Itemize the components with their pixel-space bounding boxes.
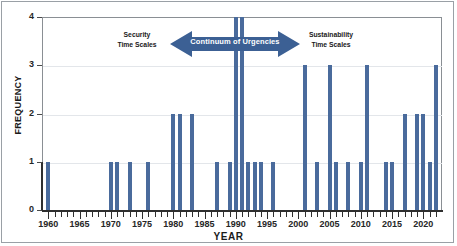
- x-axis-major-tick: [205, 212, 206, 219]
- sustainability-label-line1: Sustainability: [300, 30, 362, 40]
- x-axis-tick-label: 2020: [408, 219, 438, 229]
- x-axis-minor-tick: [161, 212, 162, 217]
- bar: [190, 114, 194, 211]
- double-arrow-icon: [170, 29, 300, 59]
- x-axis-minor-tick: [192, 212, 193, 217]
- continuum-annotation: Security Time Scales Continuum of Urgenc…: [108, 26, 358, 62]
- bar: [428, 162, 432, 210]
- x-axis-major-tick: [423, 212, 424, 219]
- bar: [346, 162, 350, 210]
- x-axis-tick-label: 1990: [221, 219, 251, 229]
- x-axis-tick-label: 2015: [377, 219, 407, 229]
- bar: [178, 114, 182, 211]
- y-axis-tick: [37, 17, 42, 18]
- x-axis-minor-tick: [198, 212, 199, 217]
- x-axis-tick-label: 1995: [252, 219, 282, 229]
- x-axis-minor-tick: [148, 212, 149, 217]
- frequency-by-year-bar-chart: FREQUENCY 01234 196019651970197519801985…: [0, 0, 457, 246]
- bar: [259, 162, 263, 210]
- y-axis-tick: [37, 65, 42, 66]
- bar: [109, 162, 113, 210]
- x-axis-tick-label: 2005: [315, 219, 345, 229]
- x-axis-minor-tick: [380, 212, 381, 217]
- x-axis-tick-label: 1965: [65, 219, 95, 229]
- x-axis-major-tick: [392, 212, 393, 219]
- bar: [128, 162, 132, 210]
- y-axis-tick: [37, 162, 42, 163]
- x-axis-minor-tick: [248, 212, 249, 217]
- x-axis-major-tick: [111, 212, 112, 219]
- bar: [434, 65, 438, 210]
- y-axis-tick-label: 1: [10, 156, 34, 166]
- bar: [390, 162, 394, 210]
- x-axis-minor-tick: [430, 212, 431, 217]
- bar: [228, 162, 232, 210]
- x-axis-major-tick: [267, 212, 268, 219]
- security-label-line2: Time Scales: [106, 40, 168, 50]
- x-axis-minor-tick: [317, 212, 318, 217]
- x-axis-minor-tick: [305, 212, 306, 217]
- y-axis-tick: [37, 114, 42, 115]
- y-axis-tick: [37, 210, 42, 211]
- x-axis-minor-tick: [348, 212, 349, 217]
- x-axis-tick-label: 1985: [190, 219, 220, 229]
- x-axis-minor-tick: [398, 212, 399, 217]
- x-axis-minor-tick: [92, 212, 93, 217]
- x-axis-minor-tick: [223, 212, 224, 217]
- bar: [215, 162, 219, 210]
- x-axis-minor-tick: [411, 212, 412, 217]
- x-axis-minor-tick: [55, 212, 56, 217]
- x-axis-minor-tick: [217, 212, 218, 217]
- bar: [253, 162, 257, 210]
- x-axis-major-tick: [142, 212, 143, 219]
- x-axis-major-tick: [80, 212, 81, 219]
- x-axis-minor-tick: [230, 212, 231, 217]
- bar: [334, 162, 338, 210]
- bar: [46, 162, 50, 210]
- x-axis-major-tick: [236, 212, 237, 219]
- x-axis-minor-tick: [355, 212, 356, 217]
- x-axis-minor-tick: [180, 212, 181, 217]
- x-axis-minor-tick: [211, 212, 212, 217]
- bar: [359, 162, 363, 210]
- x-axis-major-tick: [48, 212, 49, 219]
- x-axis-tick-label: 1970: [96, 219, 126, 229]
- x-axis-minor-tick: [61, 212, 62, 217]
- x-axis-minor-tick: [117, 212, 118, 217]
- y-axis-tick-label: 4: [10, 11, 34, 21]
- bar: [421, 114, 425, 211]
- x-axis-minor-tick: [323, 212, 324, 217]
- x-axis-minor-tick: [86, 212, 87, 217]
- x-axis-minor-tick: [155, 212, 156, 217]
- x-axis-minor-tick: [286, 212, 287, 217]
- x-axis-minor-tick: [417, 212, 418, 217]
- x-axis-minor-tick: [98, 212, 99, 217]
- x-axis-minor-tick: [273, 212, 274, 217]
- x-axis-minor-tick: [67, 212, 68, 217]
- x-axis-minor-tick: [336, 212, 337, 217]
- x-axis-minor-tick: [373, 212, 374, 217]
- bar: [115, 162, 119, 210]
- sustainability-time-scales-label: Sustainability Time Scales: [300, 30, 362, 50]
- y-axis-tick-label: 3: [10, 59, 34, 69]
- bar: [328, 65, 332, 210]
- security-time-scales-label: Security Time Scales: [106, 30, 168, 50]
- bar: [271, 162, 275, 210]
- x-axis-tick-label: 1960: [33, 219, 63, 229]
- x-axis-minor-tick: [105, 212, 106, 217]
- x-axis-major-tick: [298, 212, 299, 219]
- x-axis-minor-tick: [255, 212, 256, 217]
- bar: [246, 162, 250, 210]
- x-axis-tick-label: 1975: [127, 219, 157, 229]
- x-axis-minor-tick: [73, 212, 74, 217]
- x-axis-minor-tick: [261, 212, 262, 217]
- bar: [303, 65, 307, 210]
- x-axis-title: YEAR: [0, 231, 457, 242]
- x-axis-minor-tick: [405, 212, 406, 217]
- x-axis-minor-tick: [242, 212, 243, 217]
- bar: [171, 114, 175, 211]
- x-axis-minor-tick: [386, 212, 387, 217]
- x-axis-minor-tick: [123, 212, 124, 217]
- x-axis-minor-tick: [280, 212, 281, 217]
- y-axis-tick-labels: 01234: [4, 0, 34, 246]
